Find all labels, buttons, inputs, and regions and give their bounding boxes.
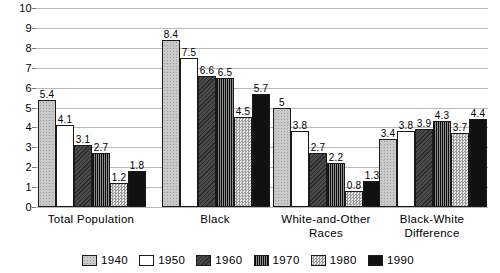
legend-item-1980[interactable]: 1980: [311, 254, 361, 266]
bar-1980[interactable]: 4.5: [234, 117, 252, 207]
y-tick-label: 4: [6, 122, 32, 133]
y-tick-label: 1: [6, 182, 32, 193]
bar-1970[interactable]: 2.2: [327, 163, 345, 207]
y-tick-label: 7: [6, 63, 32, 74]
x-label-line-1: Black-White: [400, 213, 465, 225]
bar-1990[interactable]: 5.7: [252, 94, 270, 207]
bar-value: 5.7: [254, 83, 269, 94]
legend-swatch-icon: [82, 255, 97, 266]
legend-swatch-icon: [139, 255, 154, 266]
legend-label: 1980: [330, 254, 361, 266]
legend-label: 1960: [215, 254, 246, 266]
bar-value: 7.5: [182, 47, 197, 58]
x-label-black: Black: [156, 212, 274, 226]
x-label-white-and-other-races: White-and-Other Races: [267, 212, 385, 240]
bar-group-black: 8.4 7.5 6.6 6.5 4.5 5.7: [160, 8, 270, 207]
x-label-line-2: Difference: [404, 227, 459, 239]
x-label-black-white-difference: Black-White Difference: [373, 212, 491, 240]
bar-value: 4.4: [471, 108, 486, 119]
bar-group-total-population: 5.4 4.1 3.1 2.7 1.2 1.8: [36, 8, 146, 207]
bar-value: 3.9: [417, 118, 432, 129]
legend-label: 1970: [273, 254, 304, 266]
legend-item-1960[interactable]: 1960: [196, 254, 246, 266]
y-tick-label: 6: [6, 83, 32, 94]
gridline: [36, 207, 488, 208]
bar-group-black-white-difference: 3.4 3.8 3.9 4.3 3.7 4.4: [377, 8, 487, 207]
y-tick-label: 9: [6, 23, 32, 34]
bar-value: 6.5: [218, 67, 233, 78]
legend-item-1950[interactable]: 1950: [139, 254, 189, 266]
bar-1980[interactable]: 0.8: [345, 191, 363, 207]
bar-value: 3.1: [76, 134, 91, 145]
x-label-line-1: White-and-Other: [281, 213, 371, 225]
legend-swatch-icon: [254, 255, 269, 266]
bar-value: 4.1: [58, 114, 73, 125]
y-tick-label: 2: [6, 162, 32, 173]
y-tick-label: 3: [6, 142, 32, 153]
legend-label: 1990: [387, 254, 418, 266]
bar-value: 1.2: [112, 172, 127, 183]
bar-value: 2.2: [329, 152, 344, 163]
bar-value: 3.8: [399, 120, 414, 131]
bar-value: 5.4: [40, 89, 55, 100]
y-tick-label: 0: [6, 202, 32, 213]
bar-value: 2.7: [94, 142, 109, 153]
legend: 1940 1950 1960 1970 1980 1990: [0, 250, 500, 270]
legend-label: 1950: [158, 254, 189, 266]
bar-value: 4.3: [435, 110, 450, 121]
legend-swatch-icon: [311, 255, 326, 266]
bar-value: 5: [279, 97, 285, 108]
bar-1940[interactable]: 5.4: [38, 100, 56, 208]
legend-swatch-icon: [368, 255, 383, 266]
bar-1960[interactable]: 3.9: [415, 129, 433, 207]
x-label-line-2: Races: [309, 227, 343, 239]
bar-value: 6.6: [200, 65, 215, 76]
bar-1970[interactable]: 4.3: [433, 121, 451, 207]
bar-1970[interactable]: 6.5: [216, 78, 234, 207]
x-label-total-population: Total Population: [32, 212, 150, 226]
bar-value: 4.5: [236, 106, 251, 117]
bar-1940[interactable]: 5: [273, 108, 291, 208]
bar-1940[interactable]: 3.4: [379, 139, 397, 207]
bar-1960[interactable]: 2.7: [309, 153, 327, 207]
y-axis: 10 9 8 7 6 5 4 3 2 1 0: [0, 8, 32, 207]
bar-value: 3.4: [381, 128, 396, 139]
legend-label: 1940: [101, 254, 132, 266]
bar-value: 2.7: [311, 142, 326, 153]
bar-1990[interactable]: 1.8: [128, 171, 146, 207]
bar-value: 3.8: [293, 120, 308, 131]
bar-chart: 10 9 8 7 6 5 4 3 2 1 0: [0, 0, 500, 273]
bar-1980[interactable]: 3.7: [451, 133, 469, 207]
bar-value: 3.7: [453, 122, 468, 133]
legend-item-1970[interactable]: 1970: [254, 254, 304, 266]
bar-value: 8.4: [164, 29, 179, 40]
y-tick-label: 5: [6, 103, 32, 114]
bar-1990[interactable]: 4.4: [469, 119, 487, 207]
bar-1960[interactable]: 3.1: [74, 145, 92, 207]
bar-1940[interactable]: 8.4: [162, 40, 180, 207]
bar-1950[interactable]: 3.8: [291, 131, 309, 207]
bar-1970[interactable]: 2.7: [92, 153, 110, 207]
bar-groups: 5.4 4.1 3.1 2.7 1.2 1.8 8.4 7.: [36, 8, 488, 207]
bar-value: 1.8: [130, 160, 145, 171]
bar-1960[interactable]: 6.6: [198, 76, 216, 207]
bar-1950[interactable]: 7.5: [180, 58, 198, 207]
bar-1980[interactable]: 1.2: [110, 183, 128, 207]
y-tick-label: 8: [6, 43, 32, 54]
legend-swatch-icon: [196, 255, 211, 266]
bar-1950[interactable]: 3.8: [397, 131, 415, 207]
legend-item-1990[interactable]: 1990: [368, 254, 418, 266]
bar-1950[interactable]: 4.1: [56, 125, 74, 207]
bar-group-white-and-other-races: 5 3.8 2.7 2.2 0.8 1.3: [271, 8, 381, 207]
legend-item-1940[interactable]: 1940: [82, 254, 132, 266]
x-axis-labels: Total Population Black White-and-Other R…: [36, 212, 488, 250]
bar-value: 0.8: [347, 180, 362, 191]
y-tick-label: 10: [6, 3, 32, 14]
